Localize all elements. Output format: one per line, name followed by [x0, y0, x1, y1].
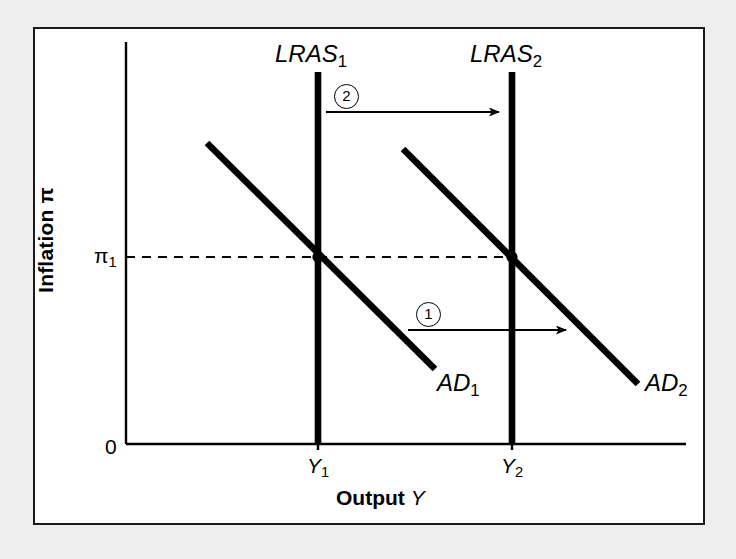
pi1-sub: 1 [109, 254, 117, 270]
y1-sub: 1 [321, 464, 329, 480]
step-1-marker: 1 [416, 302, 441, 327]
y1-base: Y [307, 454, 321, 477]
lras1-label-base: LRAS [275, 40, 338, 67]
pi1-base: π [94, 244, 109, 267]
ad1-label: AD1 [437, 371, 480, 400]
y2-sub: 2 [515, 464, 523, 480]
x-axis-title-text: Output [336, 486, 405, 509]
lras2-label: LRAS2 [470, 42, 542, 71]
ad1-label-base: AD [437, 369, 470, 396]
y-tick-label-pi1: π1 [94, 245, 117, 270]
figure-panel [33, 27, 705, 525]
step-2-marker: 2 [334, 84, 359, 109]
lras1-label: LRAS1 [275, 42, 347, 71]
ad1-label-sub: 1 [470, 381, 479, 400]
origin-label: 0 [105, 436, 117, 457]
lras1-label-sub: 1 [338, 52, 347, 71]
y-axis-title: Inflation π [34, 150, 58, 330]
ad2-label-base: AD [645, 369, 678, 396]
x-tick-label-y1: Y1 [307, 455, 329, 480]
x-axis-title: Output Y [336, 487, 425, 508]
ad2-label-sub: 2 [678, 381, 687, 400]
ad2-label: AD2 [645, 371, 688, 400]
x-axis-title-var: Y [411, 486, 425, 509]
lras2-label-sub: 2 [533, 52, 542, 71]
x-tick-label-y2: Y2 [501, 455, 523, 480]
lras2-label-base: LRAS [470, 40, 533, 67]
figure-root: Inflation π LRAS1 LRAS2 AD1 AD2 π1 0 Y1 … [0, 0, 736, 559]
y2-base: Y [501, 454, 515, 477]
